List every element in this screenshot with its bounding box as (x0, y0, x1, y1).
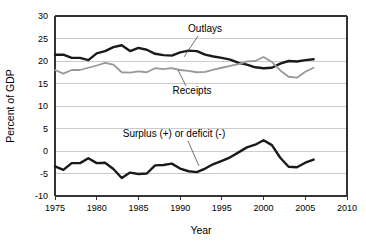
y-tick-label-25: 25 (38, 34, 48, 44)
series-label-surplus-or-deficit: Surplus (+) or deficit (-) (123, 128, 226, 139)
leader-line-outlays (184, 36, 198, 57)
x-tick-label-2010: 2010 (337, 203, 357, 213)
gridlines (55, 39, 347, 174)
y-tick-label-10: 10 (38, 101, 48, 111)
series-label-receipts: Receipts (173, 85, 212, 96)
y-tick-label-30: 30 (38, 11, 48, 21)
y-tick-label--10: -10 (35, 191, 48, 201)
x-tick-label-1990: 1990 (170, 203, 190, 213)
y-tick-label-15: 15 (38, 79, 48, 89)
x-tick-label-1985: 1985 (128, 203, 148, 213)
y-tick-label-0: 0 (43, 146, 48, 156)
data-series (55, 45, 314, 178)
x-tick-marks (55, 196, 347, 200)
y-tick-label--5: -5 (40, 169, 48, 179)
x-tick-label-2000: 2000 (254, 203, 274, 213)
x-tick-label-2005: 2005 (295, 203, 315, 213)
x-tick-label-1995: 1995 (212, 203, 232, 213)
series-label-outlays: Outlays (188, 23, 222, 34)
x-axis-title: Year (190, 224, 212, 236)
y-axis-title: Percent of GDP (4, 69, 16, 143)
chart-figure: -10-5051015202530 1975198019851990199520… (0, 0, 366, 244)
chart-canvas: -10-5051015202530 1975198019851990199520… (0, 0, 366, 244)
series-annotations: OutlaysReceiptsSurplus (+) or deficit (-… (123, 23, 226, 166)
x-tick-label-1980: 1980 (87, 203, 107, 213)
x-tick-label-1975: 1975 (45, 203, 65, 213)
series-line-surplus-or-deficit (55, 140, 314, 178)
y-tick-labels: -10-5051015202530 (35, 11, 48, 201)
x-tick-labels: 19751980198519901995200020052010 (45, 203, 357, 213)
y-tick-label-20: 20 (38, 56, 48, 66)
leader-line-surplus-or-deficit (188, 141, 199, 166)
y-tick-label-5: 5 (43, 124, 48, 134)
